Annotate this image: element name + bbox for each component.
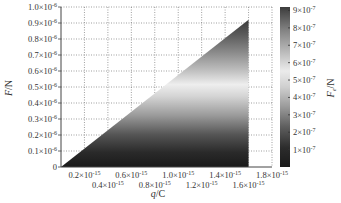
- x-tick-label: 1.0×10-15: [162, 170, 194, 180]
- colorbar: [280, 7, 290, 167]
- y-tick-label: 1.0×10-6: [28, 2, 57, 12]
- y-tick-label: 0.9×10-6: [28, 18, 57, 28]
- colorbar-tick-label: 9×10-7: [293, 5, 316, 15]
- filled-triangle-region: [61, 20, 249, 167]
- colorbar-label: Fe/N: [325, 79, 337, 99]
- y-tick-label: 0.3×10-6: [28, 114, 57, 124]
- y-axis-label: F/N: [3, 80, 14, 97]
- y-tick-label: 0.6×10-6: [28, 66, 57, 76]
- chart: 00.1×10-60.2×10-60.3×10-60.4×10-60.5×10-…: [0, 0, 341, 203]
- colorbar-tick-label: 2×10-7: [293, 127, 316, 137]
- x-tick-label: 1.4×10-15: [209, 170, 241, 180]
- x-tick-label: 0.4×10-15: [92, 180, 124, 190]
- colorbar-tick-labels: 1×10-72×10-73×10-74×10-75×10-76×10-77×10…: [288, 5, 316, 154]
- colorbar-tick-label: 3×10-7: [293, 110, 316, 120]
- y-tick-label: 0.4×10-6: [28, 98, 57, 108]
- y-tick-labels: 00.1×10-60.2×10-60.3×10-60.4×10-60.5×10-…: [28, 2, 61, 172]
- x-tick-label: 1.8×10-15: [256, 170, 288, 180]
- y-tick-label: 0.1×10-6: [28, 146, 57, 156]
- y-tick-label: 0: [53, 162, 57, 172]
- x-axis-label: q/C: [151, 188, 166, 199]
- x-tick-label: 0.2×10-15: [68, 170, 100, 180]
- colorbar-tick-label: 1×10-7: [293, 145, 316, 155]
- colorbar-tick-label: 8×10-7: [293, 23, 316, 33]
- colorbar-tick-label: 6×10-7: [293, 58, 316, 68]
- x-tick-labels: 0.2×10-150.4×10-150.6×10-150.8×10-151.0×…: [68, 170, 287, 190]
- y-tick-label: 0.5×10-6: [28, 82, 57, 92]
- y-tick-label: 0.2×10-6: [28, 130, 57, 140]
- colorbar-tick-label: 7×10-7: [293, 40, 316, 50]
- x-tick-label: 1.6×10-15: [233, 180, 265, 190]
- y-tick-label: 0.8×10-6: [28, 34, 57, 44]
- x-tick-label: 0.6×10-15: [115, 170, 147, 180]
- colorbar-tick-label: 5×10-7: [293, 75, 316, 85]
- y-tick-label: 0.7×10-6: [28, 50, 57, 60]
- colorbar-tick-label: 4×10-7: [293, 92, 316, 102]
- x-tick-label: 1.2×10-15: [186, 180, 218, 190]
